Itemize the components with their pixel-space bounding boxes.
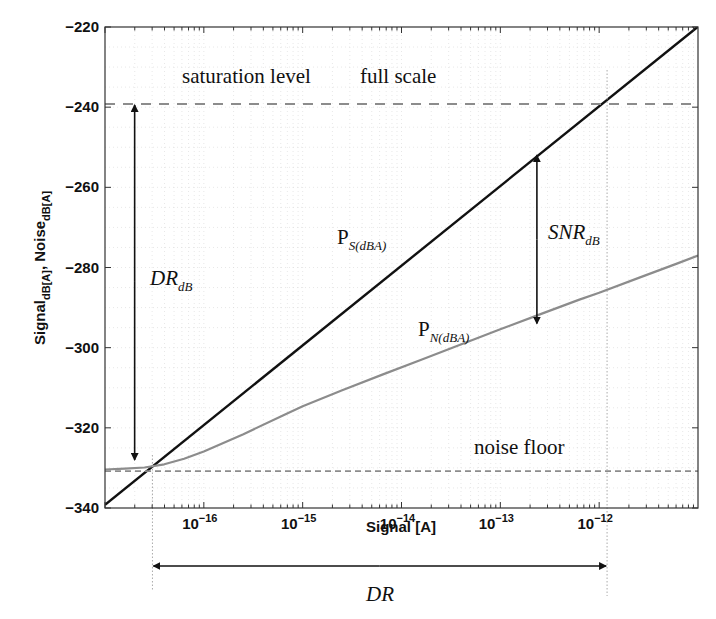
full-scale-label: full scale bbox=[360, 64, 436, 88]
saturation-level-label: saturation level bbox=[182, 64, 311, 88]
dr-db-label: DRdB bbox=[149, 266, 193, 294]
y-tick-label: −300 bbox=[65, 339, 99, 356]
chart: 10−1610−1510−1410−1310−12 −220−240−260−2… bbox=[0, 0, 716, 619]
series-layer bbox=[105, 27, 698, 505]
noise-floor-label: noise floor bbox=[474, 435, 564, 459]
y-tick-label: −280 bbox=[65, 259, 99, 276]
annotation-arrows bbox=[135, 105, 606, 566]
y-tick-label: −340 bbox=[65, 499, 99, 516]
ps-label: PS(dBA) bbox=[337, 225, 386, 253]
y-tick-label: −260 bbox=[65, 178, 99, 195]
series-p-s-dba bbox=[105, 27, 698, 505]
y-axis-label: SignaldB[A], NoisedB[A] bbox=[31, 191, 52, 345]
y-tick-label: −220 bbox=[65, 18, 99, 35]
snr-db-label: SNRdB bbox=[548, 220, 600, 248]
x-tick-label: 10−16 bbox=[182, 512, 217, 532]
x-tick-label: 10−13 bbox=[479, 512, 514, 532]
dr-label: DR bbox=[365, 582, 394, 606]
y-tick-label: −240 bbox=[65, 98, 99, 115]
y-tick-label: −320 bbox=[65, 419, 99, 436]
x-tick-label: 10−15 bbox=[281, 512, 316, 532]
x-axis-label: Signal [A] bbox=[366, 518, 436, 535]
pn-label: PN(dBA) bbox=[418, 317, 469, 345]
